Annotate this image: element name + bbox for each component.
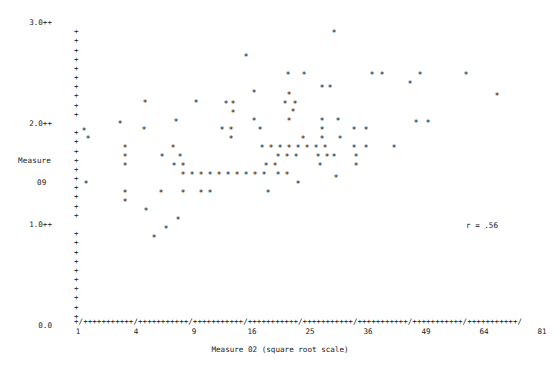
x-axis-tick-label: 25	[305, 327, 314, 337]
y-axis-tick-mark: +	[74, 266, 79, 275]
x-axis-tick-label: 16	[247, 327, 256, 337]
y-axis-tick-minor: +	[0, 165, 120, 174]
y-axis-tick-label: 3.0++	[29, 18, 52, 27]
data-point: *	[379, 71, 384, 80]
data-point: *	[143, 207, 148, 216]
data-point: *	[122, 162, 127, 171]
data-point: *	[216, 171, 221, 180]
y-axis-tick-major: 3.0++	[0, 18, 120, 27]
data-point: *	[282, 100, 287, 109]
data-point: *	[351, 144, 356, 153]
y-axis-tick-minor: +	[0, 211, 120, 220]
data-point: *	[335, 117, 340, 126]
data-point: *	[363, 126, 368, 135]
data-point: *	[319, 135, 324, 144]
data-point: *	[225, 171, 230, 180]
data-point: *	[494, 92, 499, 101]
data-point: *	[327, 84, 332, 93]
data-point: *	[259, 144, 264, 153]
y-axis-tick-mark: +	[74, 101, 79, 110]
y-axis-tick-major: 1.0++	[0, 220, 120, 229]
data-point: *	[324, 153, 329, 162]
y-axis-tick-minor: +	[0, 147, 120, 156]
y-axis-tick-minor: +	[0, 293, 120, 302]
data-point: *	[257, 126, 262, 135]
data-point: *	[275, 171, 280, 180]
data-point: *	[272, 162, 277, 171]
y-axis-tick-minor: +	[0, 36, 120, 45]
x-axis-tick-label: 81	[537, 327, 546, 337]
y-axis-tick-mark: +	[74, 257, 79, 266]
data-point: *	[284, 153, 289, 162]
data-point: *	[230, 109, 235, 118]
x-axis-line: +/+++++++++++/+++++++++++/+++++++++++/++…	[74, 317, 522, 326]
y-axis-tick-minor: +	[0, 174, 120, 183]
data-point: *	[277, 144, 282, 153]
y-axis-tick-mark: +	[74, 275, 79, 284]
y-axis-tick-minor: +	[0, 284, 120, 293]
y-axis-tick-minor: +	[0, 202, 120, 211]
data-point: *	[293, 153, 298, 162]
data-point: *	[234, 171, 239, 180]
data-point: *	[292, 100, 297, 109]
y-axis-tick-mark: +	[74, 147, 79, 156]
data-point: *	[170, 144, 175, 153]
y-axis-tick-minor: +	[0, 55, 120, 64]
y-axis-tick-minor: +	[0, 303, 120, 312]
data-point: *	[158, 189, 163, 198]
x-axis-tick-label: 1	[76, 327, 81, 337]
y-axis-tick-mark: +	[74, 91, 79, 100]
data-point: *	[319, 126, 324, 135]
y-axis-tick-mark: +	[74, 174, 79, 183]
data-point: *	[230, 100, 235, 109]
y-axis-tick-mark: +	[74, 229, 79, 238]
data-point: *	[290, 108, 295, 117]
y-axis-tick-mark: +	[74, 202, 79, 211]
data-point: *	[207, 171, 212, 180]
data-point: *	[207, 189, 212, 198]
x-axis-tick-label: 49	[421, 327, 430, 337]
data-point: *	[407, 80, 412, 89]
y-axis-tick-minor: +	[0, 27, 120, 36]
data-point: *	[363, 144, 368, 153]
data-point: *	[219, 126, 224, 135]
y-axis-tick-minor: +	[0, 64, 120, 73]
data-point: *	[353, 162, 358, 171]
y-axis-tick-mark: +	[74, 55, 79, 64]
data-point: *	[317, 162, 322, 171]
y-axis-tick-minor: +	[0, 192, 120, 201]
data-point: *	[322, 144, 327, 153]
data-point: *	[180, 171, 185, 180]
y-axis-tick-minor: +	[0, 238, 120, 247]
y-axis-tick-minor: +	[0, 275, 120, 284]
y-axis-tick-minor: +	[0, 229, 120, 238]
data-point: *	[251, 117, 256, 126]
data-point: *	[180, 162, 185, 171]
y-axis-tick-minor: +	[0, 183, 120, 192]
data-point: *	[252, 171, 257, 180]
x-axis-tick-label: 4	[134, 327, 139, 337]
data-point: *	[171, 162, 176, 171]
x-axis-title: Measure 02 (square root scale)	[0, 345, 560, 355]
y-axis-tick-mark: +	[74, 293, 79, 302]
data-point: *	[223, 100, 228, 109]
y-axis-tick-mark: +	[74, 284, 79, 293]
y-axis-title-line1: Measure	[18, 156, 51, 165]
data-point: *	[391, 144, 396, 153]
y-axis-tick-minor: +	[0, 73, 120, 82]
data-point: *	[263, 162, 268, 171]
data-point: *	[417, 71, 422, 80]
data-point: *	[261, 171, 266, 180]
data-point: *	[141, 126, 146, 135]
data-point: *	[180, 189, 185, 198]
y-axis-tick-minor: +	[0, 101, 120, 110]
data-point: *	[189, 171, 194, 180]
y-axis-tick-mark: +	[74, 183, 79, 192]
data-point: *	[275, 153, 280, 162]
data-point: *	[369, 71, 374, 80]
y-axis-tick-mark: +	[74, 303, 79, 312]
data-point: *	[463, 71, 468, 80]
data-point: *	[159, 153, 164, 162]
y-axis-tick-mark: +	[74, 192, 79, 201]
data-point: *	[265, 189, 270, 198]
